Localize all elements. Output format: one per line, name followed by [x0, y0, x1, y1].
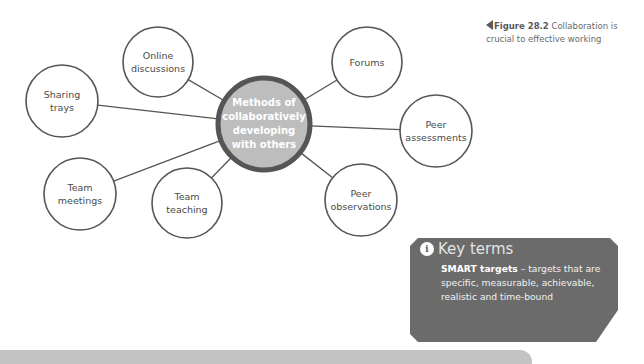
node-label-team-meetings: Team meetings: [44, 158, 116, 230]
node-label-peer-assessments: Peer assessments: [400, 95, 472, 167]
caption-arrow-icon: [486, 20, 493, 30]
key-term: SMART targets: [441, 263, 518, 274]
node-label-online-discussions: Online discussions: [123, 27, 193, 97]
bottom-band: [0, 350, 532, 364]
key-terms-definition: SMART targets – targets that are specifi…: [441, 262, 609, 304]
node-label-forums: Forums: [332, 27, 402, 97]
figure-number: Figure 28.2: [494, 21, 549, 31]
info-icon: i: [420, 242, 434, 256]
node-label-team-teaching: Team teaching: [152, 168, 222, 238]
node-label-peer-observations: Peer observations: [325, 164, 397, 236]
connector-line: [98, 105, 219, 119]
figure-caption: Figure 28.2 Collaboration is crucial to …: [486, 20, 636, 46]
key-terms-heading: i Key terms: [420, 240, 513, 258]
connector-line: [310, 126, 400, 130]
center-label: Methods of collaboratively developing wi…: [218, 78, 310, 170]
node-label-sharing-trays: Sharing trays: [26, 65, 98, 137]
key-terms-title: Key terms: [438, 240, 513, 258]
